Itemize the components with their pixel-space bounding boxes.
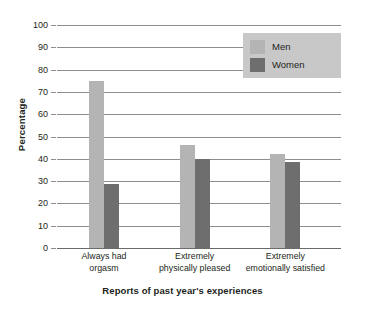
x-axis-category-label-2: Extremely emotionally satisfied — [227, 251, 343, 274]
legend-swatch-women — [250, 58, 265, 72]
y-axis-tick-mark — [51, 25, 56, 26]
y-axis-tick-label: 0 — [43, 244, 48, 253]
y-axis-tick-label: 50 — [38, 132, 48, 141]
legend-item-men: Men — [250, 38, 341, 55]
y-axis-title: Percentage — [16, 85, 27, 165]
y-axis-tick-label: 80 — [38, 65, 48, 74]
y-axis-tick-label: 70 — [38, 87, 48, 96]
bar-chart: Percentage 0102030405060708090100Always … — [0, 0, 365, 310]
y-axis-tick-mark — [51, 226, 56, 227]
y-axis-tick-label: 30 — [38, 177, 48, 186]
y-axis-tick-label: 10 — [38, 221, 48, 230]
x-axis-category-label-0: Always had orgasm — [61, 251, 147, 274]
y-axis-tick-mark — [51, 248, 56, 249]
bar-men-0 — [89, 81, 104, 248]
x-axis-title: Reports of past year's experiences — [0, 285, 365, 296]
y-axis-tick-label: 20 — [38, 199, 48, 208]
y-axis-tick-label: 60 — [38, 110, 48, 119]
legend-item-women: Women — [250, 56, 341, 73]
x-axis-line — [57, 248, 341, 249]
y-axis-tick-mark — [51, 47, 56, 48]
y-axis-tick-label: 90 — [38, 43, 48, 52]
y-axis-tick-mark — [51, 70, 56, 71]
y-axis-tick-mark — [51, 181, 56, 182]
bar-women-0 — [104, 184, 119, 248]
y-axis-tick-mark — [51, 159, 56, 160]
bar-men-2 — [270, 154, 285, 248]
bar-women-1 — [195, 159, 210, 248]
y-axis-tick-label: 40 — [38, 154, 48, 163]
y-axis-tick-mark — [51, 137, 56, 138]
gridline — [57, 25, 341, 26]
y-axis-tick-mark — [51, 92, 56, 93]
chart-legend: MenWomen — [243, 33, 341, 78]
legend-label-men: Men — [272, 42, 290, 52]
legend-label-women: Women — [272, 60, 305, 70]
legend-swatch-men — [250, 40, 265, 54]
y-axis-tick-mark — [51, 203, 56, 204]
y-axis-tick-mark — [51, 114, 56, 115]
y-axis-tick-label: 100 — [33, 21, 48, 30]
bar-women-2 — [285, 162, 300, 248]
bar-men-1 — [180, 145, 195, 248]
